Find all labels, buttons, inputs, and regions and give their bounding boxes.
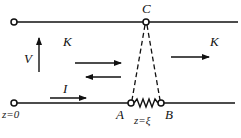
node-a-label: A — [115, 107, 124, 122]
dashed-c-to-b — [147, 25, 160, 100]
node-c-label: C — [142, 1, 151, 16]
upper-left-terminal — [11, 19, 17, 25]
resistor — [134, 99, 158, 107]
voltage-label: V — [24, 51, 34, 66]
node-b — [158, 100, 164, 106]
wave-right-label: K — [209, 34, 220, 49]
wave-left-label: K — [62, 34, 73, 49]
lower-left-terminal — [11, 100, 17, 106]
current-label: I — [62, 81, 68, 96]
transmission-line-diagram: V K K I C A B z=0 z=ξ — [0, 0, 241, 138]
origin-label: z=0 — [1, 108, 20, 120]
node-c — [143, 19, 149, 25]
dashed-c-to-a — [132, 25, 145, 100]
node-b-label: B — [165, 107, 173, 122]
load-position-label: z=ξ — [133, 114, 151, 127]
node-a — [128, 100, 134, 106]
